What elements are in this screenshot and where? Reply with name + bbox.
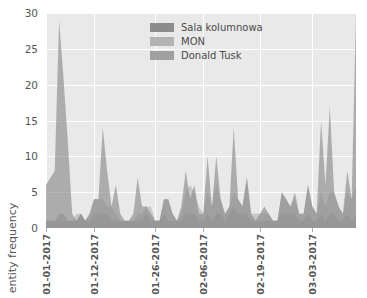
- legend-item: Donald Tusk: [150, 50, 263, 61]
- legend-item: Sala kolumnowa: [150, 22, 263, 33]
- legend-item: MON: [150, 36, 263, 47]
- chart-legend: Sala kolumnowaMONDonald Tusk: [150, 22, 263, 61]
- y-axis-title: entity frequency: [6, 168, 19, 298]
- x-tick-mark: [312, 228, 313, 232]
- legend-label: Sala kolumnowa: [181, 22, 263, 33]
- x-tick-mark: [94, 228, 95, 232]
- y-tick-label: 5: [31, 186, 38, 198]
- legend-swatch: [150, 51, 174, 60]
- chart-figure: 051015202530 entity frequency 01-01-2017…: [0, 0, 367, 298]
- legend-swatch: [150, 37, 174, 46]
- y-tick-label: 0: [31, 222, 38, 234]
- legend-label: MON: [181, 36, 205, 47]
- y-tick-label: 30: [25, 7, 38, 19]
- x-tick-mark: [155, 228, 156, 232]
- x-tick-label: 02-19-2017: [254, 234, 265, 295]
- x-tick-label: 01-12-2017: [89, 234, 100, 295]
- y-tick-label: 15: [25, 115, 38, 127]
- y-tick-label: 10: [25, 150, 38, 162]
- x-tick-label: 03-03-2017: [307, 234, 318, 295]
- x-axis: 01-01-201701-12-201701-26-201702-06-2017…: [46, 228, 356, 298]
- x-tick-label: 02-06-2017: [198, 234, 209, 295]
- x-tick-mark: [260, 228, 261, 232]
- x-tick-label: 01-01-2017: [41, 234, 52, 295]
- x-tick-mark: [46, 228, 47, 232]
- y-tick-label: 20: [25, 79, 38, 91]
- legend-label: Donald Tusk: [181, 50, 242, 61]
- legend-swatch: [150, 23, 174, 32]
- y-tick-label: 25: [25, 43, 38, 55]
- x-tick-label: 01-26-2017: [150, 234, 161, 295]
- y-axis-title-wrapper: entity frequency: [13, 124, 14, 125]
- x-tick-mark: [203, 228, 204, 232]
